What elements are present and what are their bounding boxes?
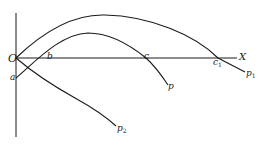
label-p1-sub: 1 <box>252 72 256 79</box>
label-b-text: b <box>47 51 53 61</box>
label-p: p <box>168 82 174 91</box>
label-origin-text: O <box>8 52 17 65</box>
label-a-text: a <box>10 72 15 82</box>
label-p-text: p <box>168 81 174 91</box>
diagram-canvas <box>0 0 259 146</box>
label-b: b <box>47 52 53 61</box>
label-p1: p1 <box>246 69 256 79</box>
label-origin: O <box>8 53 17 64</box>
label-c1: c1 <box>213 58 222 68</box>
label-x-axis: X <box>239 52 246 62</box>
label-c-text: c <box>144 51 149 61</box>
curve-p2 <box>16 58 116 126</box>
label-c1-sub: 1 <box>218 61 222 68</box>
label-x-axis-text: X <box>239 51 246 62</box>
label-a: a <box>10 73 15 82</box>
label-c: c <box>144 52 149 61</box>
label-p2: p2 <box>117 124 127 134</box>
label-p2-sub: 2 <box>123 127 127 134</box>
curve-p1 <box>16 15 245 72</box>
